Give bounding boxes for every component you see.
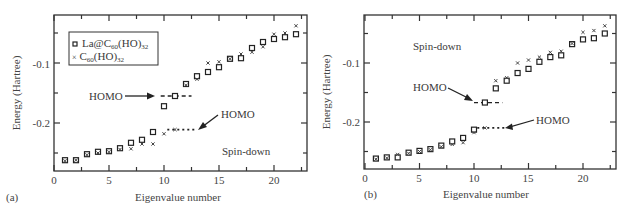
square-data-point bbox=[559, 53, 564, 58]
ytick-label: -0.2 bbox=[33, 117, 50, 129]
square-data-point bbox=[515, 71, 520, 76]
cross-data-point bbox=[494, 79, 497, 82]
square-data-point bbox=[526, 66, 531, 71]
x-axis-label: Eigenvalue number bbox=[443, 188, 529, 200]
arrow-down-right-icon bbox=[448, 88, 473, 101]
axis-ticks-b bbox=[364, 15, 616, 169]
cross-data-point bbox=[603, 24, 606, 27]
square-data-point bbox=[602, 31, 607, 36]
cross-data-point bbox=[549, 51, 552, 54]
square-marker-icon bbox=[73, 42, 77, 46]
xtick-label: 20 bbox=[578, 172, 590, 184]
arrow-down-left-icon bbox=[198, 115, 218, 130]
ytick-label: -0.2 bbox=[343, 116, 360, 128]
y-axis-label: Energy (Hartree) bbox=[10, 55, 23, 130]
legend-item-c60: ×C60(HO)32 bbox=[72, 50, 125, 64]
square-data-point bbox=[294, 32, 299, 37]
square-data-point bbox=[537, 59, 542, 64]
square-data-point bbox=[591, 36, 596, 41]
square-data-point bbox=[151, 130, 156, 135]
homo-label: HOMO bbox=[536, 114, 570, 126]
square-data-point bbox=[493, 86, 498, 91]
xtick-label: 15 bbox=[523, 172, 535, 184]
cross-data-point bbox=[272, 33, 275, 36]
square-data-point bbox=[461, 135, 466, 140]
y-axis-label: Energy (Hartree) bbox=[320, 54, 333, 129]
arrow-down-left-icon bbox=[505, 120, 534, 130]
xtick-label: 10 bbox=[159, 174, 171, 186]
square-data-point bbox=[548, 55, 553, 60]
cross-data-point bbox=[151, 142, 154, 145]
spin-down-label: Spin-down bbox=[222, 145, 271, 157]
xtick-label: 0 bbox=[51, 174, 57, 186]
xtick-label: 10 bbox=[469, 172, 481, 184]
x-axis-label: Eigenvalue number bbox=[135, 191, 221, 203]
cross-data-point bbox=[206, 61, 209, 64]
homo-label: HOMO bbox=[221, 108, 255, 120]
homo-label: HOMO bbox=[413, 81, 447, 93]
spin-down-label: Spin-down bbox=[413, 40, 462, 52]
cross-data-point bbox=[162, 132, 165, 135]
panel-label: (a) bbox=[6, 191, 19, 204]
cross-data-point bbox=[592, 29, 595, 32]
cross-data-point bbox=[294, 24, 297, 27]
homo-label: HOMO bbox=[89, 90, 123, 102]
xtick-label: 20 bbox=[269, 174, 281, 186]
square-data-point bbox=[482, 100, 487, 105]
square-data-point bbox=[162, 104, 167, 109]
xtick-label: 5 bbox=[106, 174, 112, 186]
data-points-b bbox=[373, 24, 607, 161]
cross-data-point bbox=[261, 45, 264, 48]
cross-data-point bbox=[538, 56, 541, 59]
panel-b: -0.1 -0.2 0 5 10 15 20 Eigenvalue number… bbox=[320, 15, 616, 201]
square-data-point bbox=[129, 140, 134, 145]
ytick-label: -0.1 bbox=[33, 58, 50, 70]
cross-data-point bbox=[129, 147, 132, 150]
square-data-point bbox=[261, 40, 266, 45]
cross-data-point bbox=[516, 61, 519, 64]
cross-data-point bbox=[581, 31, 584, 34]
xtick-label: 15 bbox=[214, 174, 226, 186]
square-data-point bbox=[581, 37, 586, 42]
ytick-label: -0.1 bbox=[343, 57, 360, 69]
square-data-point bbox=[239, 56, 244, 61]
xtick-label: 5 bbox=[416, 172, 422, 184]
arrow-right-icon bbox=[125, 93, 155, 100]
square-data-point bbox=[283, 35, 288, 40]
panel-a: -0.1 -0.2 0 5 10 15 20 Eigenvalue number… bbox=[6, 15, 307, 204]
square-data-point bbox=[206, 70, 211, 75]
figure: -0.1 -0.2 0 5 10 15 20 Eigenvalue number… bbox=[0, 0, 627, 210]
square-data-point bbox=[140, 137, 145, 142]
xtick-label: 0 bbox=[362, 172, 368, 184]
homo-lines-b bbox=[474, 103, 506, 128]
square-data-point bbox=[217, 65, 222, 70]
square-data-point bbox=[272, 37, 277, 42]
square-data-point bbox=[250, 46, 255, 51]
homo-lines-a bbox=[161, 96, 197, 130]
cross-data-point bbox=[462, 141, 465, 144]
legend: La@C60(HO)32 ×C60(HO)32 bbox=[69, 32, 158, 65]
plot-frame-b bbox=[364, 15, 616, 169]
panel-label: (b) bbox=[364, 188, 377, 201]
cross-data-point bbox=[527, 58, 530, 61]
square-data-point bbox=[173, 94, 178, 99]
cross-data-point bbox=[217, 60, 220, 63]
